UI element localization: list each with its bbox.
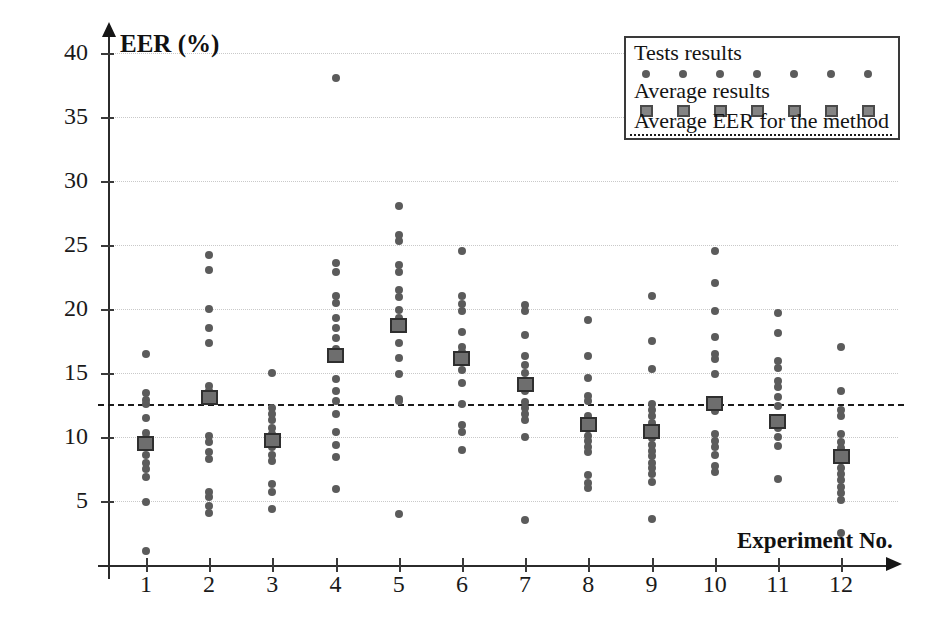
- data-point-dot: [711, 279, 719, 287]
- data-point-dot: [458, 292, 466, 300]
- data-point-dot: [395, 293, 403, 301]
- data-point-dot: [395, 510, 403, 518]
- legend-label-average-eer: Average EER for the method: [634, 110, 889, 132]
- average-eer-line: [98, 404, 904, 406]
- y-axis-tick-label: 30: [48, 168, 88, 192]
- x-axis-tick: [146, 558, 148, 572]
- data-point-dot: [142, 451, 150, 459]
- data-point-dot: [395, 354, 403, 362]
- legend-dot-sample: [864, 70, 872, 78]
- legend-dot-sample: [679, 70, 687, 78]
- x-axis-tick: [336, 558, 338, 572]
- data-point-dot: [458, 379, 466, 387]
- data-point-dot: [332, 428, 340, 436]
- x-axis-title: Experiment No.: [737, 528, 893, 554]
- legend-dot-sample: [790, 70, 798, 78]
- y-axis-line: [108, 34, 110, 579]
- data-point-dot: [205, 455, 213, 463]
- y-axis-tick: [101, 53, 114, 55]
- legend-dot-sample: [642, 70, 650, 78]
- data-point-dot: [837, 496, 845, 504]
- legend-dot-sample: [827, 70, 835, 78]
- y-axis-tick: [101, 181, 114, 183]
- gridline: [108, 181, 898, 182]
- data-point-dot: [584, 352, 592, 360]
- y-axis-tick-label: 5: [48, 488, 88, 512]
- data-point-dot: [774, 364, 782, 372]
- data-point-dot: [395, 339, 403, 347]
- data-point-dot: [332, 259, 340, 267]
- data-point-dot: [205, 251, 213, 259]
- x-axis-tick-label: 9: [629, 572, 675, 596]
- data-point-dot: [205, 339, 213, 347]
- data-point-dot: [584, 448, 592, 456]
- eer-scatter-chart: 510152025303540 EER (%) 123456789101112 …: [0, 0, 934, 634]
- data-point-dot: [332, 387, 340, 395]
- data-point-dot: [774, 442, 782, 450]
- x-axis-tick-label: 11: [755, 572, 801, 596]
- data-point-dot: [837, 412, 845, 420]
- data-point-dot: [395, 202, 403, 210]
- data-point-dot: [837, 343, 845, 351]
- data-point-dot: [584, 316, 592, 324]
- y-axis-tick-label: 35: [48, 104, 88, 128]
- data-point-dot: [521, 516, 529, 524]
- data-point-dot: [521, 416, 529, 424]
- data-point-dot: [142, 465, 150, 473]
- data-point-dot: [142, 400, 150, 408]
- data-point-dot: [774, 433, 782, 441]
- data-point-dot: [332, 268, 340, 276]
- average-result-marker: [833, 449, 850, 464]
- data-point-dot: [142, 547, 150, 555]
- data-point-dot: [395, 397, 403, 405]
- data-point-dot: [711, 443, 719, 451]
- x-axis-tick-label: 8: [565, 572, 611, 596]
- data-point-dot: [774, 329, 782, 337]
- y-axis-arrow-icon: [102, 22, 116, 37]
- data-point-dot: [584, 484, 592, 492]
- y-axis-title: EER (%): [120, 30, 219, 58]
- data-point-dot: [332, 74, 340, 82]
- average-result-marker: [390, 318, 407, 333]
- x-axis-tick: [209, 558, 211, 572]
- data-point-dot: [774, 309, 782, 317]
- data-point-dot: [774, 393, 782, 401]
- data-point-dot: [711, 451, 719, 459]
- average-result-marker: [453, 351, 470, 366]
- gridline: [108, 245, 898, 246]
- data-point-dot: [205, 493, 213, 501]
- x-axis-tick: [715, 558, 717, 572]
- average-result-marker: [137, 436, 154, 451]
- legend-dot-sample: [753, 70, 761, 78]
- data-point-dot: [458, 247, 466, 255]
- data-point-dot: [774, 402, 782, 410]
- data-point-dot: [458, 446, 466, 454]
- x-axis-tick-label: 1: [123, 572, 169, 596]
- data-point-dot: [395, 370, 403, 378]
- x-axis-tick: [778, 558, 780, 572]
- average-result-marker: [327, 348, 344, 363]
- x-axis-tick: [652, 558, 654, 572]
- data-point-dot: [521, 369, 529, 377]
- data-point-dot: [205, 438, 213, 446]
- data-point-dot: [648, 337, 656, 345]
- data-point-dot: [332, 410, 340, 418]
- gridline: [108, 501, 898, 502]
- data-point-dot: [711, 370, 719, 378]
- data-point-dot: [521, 433, 529, 441]
- x-axis-line: [98, 565, 888, 567]
- data-point-dot: [142, 498, 150, 506]
- x-axis-tick-label: 10: [692, 572, 738, 596]
- x-axis-tick-label: 3: [249, 572, 295, 596]
- data-point-dot: [205, 305, 213, 313]
- data-point-dot: [521, 331, 529, 339]
- x-axis-tick: [399, 558, 401, 572]
- data-point-dot: [205, 509, 213, 517]
- data-point-dot: [711, 307, 719, 315]
- data-point-dot: [521, 307, 529, 315]
- average-result-marker: [769, 414, 786, 429]
- average-result-marker: [201, 390, 218, 405]
- data-point-dot: [648, 515, 656, 523]
- data-point-dot: [142, 473, 150, 481]
- data-point-dot: [205, 266, 213, 274]
